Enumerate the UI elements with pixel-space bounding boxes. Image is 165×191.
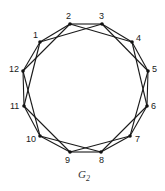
edge-7-8 bbox=[101, 136, 130, 152]
graph-diagram: 123456789101112 G2 bbox=[0, 0, 165, 191]
vertex-label-4: 4 bbox=[136, 33, 141, 43]
edge-8-10 bbox=[40, 136, 101, 152]
vertex-label-5: 5 bbox=[152, 64, 157, 74]
caption-main: G bbox=[78, 168, 86, 180]
edge-5-6 bbox=[147, 71, 148, 106]
edges-layer bbox=[23, 24, 148, 152]
edge-7-9 bbox=[70, 136, 130, 152]
edge-5-7 bbox=[130, 71, 148, 136]
caption-subscript: 2 bbox=[86, 174, 90, 183]
vertex-9 bbox=[68, 150, 72, 154]
edge-9-11 bbox=[24, 106, 70, 152]
vertex-label-2: 2 bbox=[66, 11, 71, 21]
edge-2-4 bbox=[70, 24, 132, 42]
vertex-1 bbox=[38, 40, 42, 44]
vertex-label-10: 10 bbox=[26, 134, 36, 144]
vertex-12 bbox=[21, 69, 25, 73]
vertex-label-9: 9 bbox=[65, 155, 70, 165]
vertex-7 bbox=[128, 134, 132, 138]
vertex-8 bbox=[99, 150, 103, 154]
edge-11-1 bbox=[24, 42, 40, 106]
edge-12-2 bbox=[23, 24, 70, 71]
vertex-labels-layer: 123456789101112 bbox=[9, 11, 157, 165]
edge-1-3 bbox=[40, 24, 102, 42]
edge-4-6 bbox=[132, 42, 147, 106]
vertex-11 bbox=[22, 104, 26, 108]
edge-10-12 bbox=[23, 71, 40, 136]
vertex-2 bbox=[68, 22, 72, 26]
vertex-5 bbox=[146, 69, 150, 73]
edge-3-5 bbox=[102, 24, 148, 71]
vertex-label-12: 12 bbox=[9, 64, 19, 74]
vertex-10 bbox=[38, 134, 42, 138]
vertex-3 bbox=[100, 22, 104, 26]
edge-10-11 bbox=[24, 106, 40, 136]
figure-caption: G2 bbox=[78, 168, 90, 183]
vertex-label-11: 11 bbox=[10, 101, 19, 111]
vertex-6 bbox=[145, 104, 149, 108]
vertex-4 bbox=[130, 40, 134, 44]
edge-6-8 bbox=[101, 106, 147, 152]
edge-9-10 bbox=[40, 136, 70, 152]
vertex-label-6: 6 bbox=[151, 101, 156, 111]
vertex-label-7: 7 bbox=[135, 134, 140, 144]
vertex-label-1: 1 bbox=[33, 30, 38, 40]
vertex-label-3: 3 bbox=[99, 11, 104, 21]
vertex-label-8: 8 bbox=[99, 155, 104, 165]
